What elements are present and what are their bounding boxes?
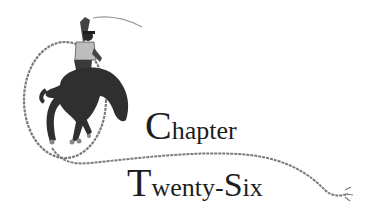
- chapter-heading-page: Chapter Twenty-Six: [0, 0, 368, 218]
- number-rest-2: ix: [243, 173, 263, 202]
- number-rest: wenty-: [151, 173, 223, 202]
- chapter-number: Twenty-Six: [127, 163, 263, 203]
- number-initial-2: S: [224, 166, 243, 203]
- number-initial: T: [127, 160, 151, 205]
- chapter-rest: hapter: [172, 116, 237, 145]
- chapter-label: Chapter: [145, 106, 237, 146]
- chapter-initial: C: [145, 103, 172, 148]
- whip-icon: [93, 17, 142, 27]
- rope-frayed-end-icon: [345, 187, 353, 201]
- bucking-horse-icon: [41, 68, 128, 145]
